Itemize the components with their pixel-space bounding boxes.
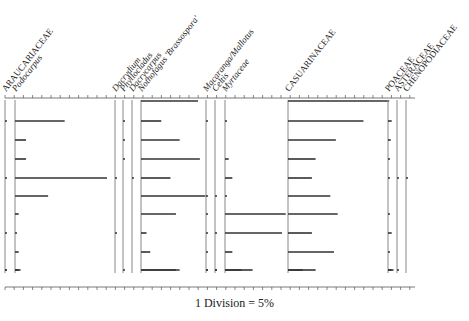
taxon-label: CASUARINACEAE: [283, 27, 338, 93]
scale-caption: 1 Division = 5%: [0, 296, 469, 311]
taxon-column-celtis: Celtis: [210, 70, 231, 273]
pollen-diagram: ARAUCARIACEAEPodocarpusDacrydiumPhyllocl…: [0, 0, 469, 321]
taxon-column-podocarpus: Podocarpus: [9, 52, 107, 273]
taxon-column-myrtaceae: Myrtaceae: [219, 57, 286, 273]
taxon-label: ARAUCARIACEAE: [0, 26, 55, 93]
taxon-column-casuarinaceae: CASUARINACEAE: [283, 27, 390, 273]
